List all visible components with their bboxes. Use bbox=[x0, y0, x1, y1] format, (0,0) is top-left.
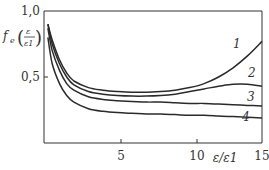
y-axis-paren-open: ( bbox=[17, 27, 24, 48]
curve-3 bbox=[48, 28, 262, 106]
y-axis-frac-den: ε1 bbox=[24, 39, 33, 48]
x-axis-label: ε/ε1 bbox=[213, 151, 238, 165]
x-tick-15: 15 bbox=[254, 149, 269, 163]
curve-label-1: 1 bbox=[233, 37, 241, 51]
x-tick-10: 10 bbox=[189, 149, 204, 163]
y-tick-1-0: 1,0 bbox=[21, 4, 40, 18]
y-axis-label-sub: e bbox=[10, 36, 15, 45]
curve-label-3: 3 bbox=[247, 90, 255, 104]
plot-frame bbox=[44, 11, 262, 143]
y-axis-label-f: f bbox=[2, 29, 10, 43]
curve-1 bbox=[48, 24, 262, 92]
curve-labels: 1 2 3 4 bbox=[233, 37, 256, 124]
curve-label-2: 2 bbox=[247, 66, 256, 80]
curves bbox=[48, 24, 262, 118]
curve-4 bbox=[48, 37, 262, 118]
x-tick-5: 5 bbox=[117, 149, 125, 163]
y-axis-paren-close: ) bbox=[35, 27, 42, 48]
curve-2 bbox=[48, 24, 262, 96]
y-axis-frac-num: ε bbox=[26, 27, 30, 36]
curve-label-4: 4 bbox=[241, 110, 250, 124]
y-axis-label: f e ( ε ε1 ) bbox=[2, 27, 42, 48]
chart: 1,0 0,5 f e ( ε ε1 ) 5 10 15 ε/ε1 1 2 3 … bbox=[0, 0, 269, 170]
y-tick-0-5: 0,5 bbox=[21, 70, 40, 84]
y-axis: 1,0 0,5 f e ( ε ε1 ) bbox=[2, 4, 48, 84]
